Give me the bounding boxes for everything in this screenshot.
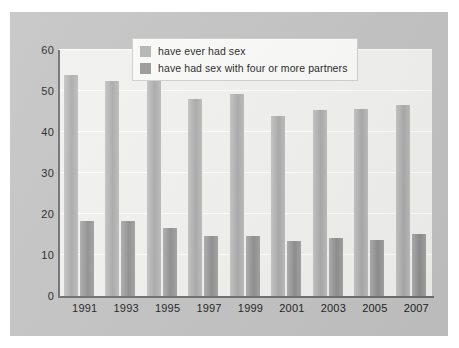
chart-legend: have ever had sex have had sex with four…: [132, 38, 358, 81]
bar: [230, 94, 244, 296]
bar: [188, 99, 202, 296]
bar: [354, 109, 368, 296]
y-axis-tick-label: 0: [14, 290, 54, 302]
bar: [246, 236, 260, 296]
bar: [105, 81, 119, 296]
bar-group: [308, 50, 349, 296]
legend-item: have ever had sex: [140, 45, 348, 57]
bar: [313, 110, 327, 296]
bar-group: [100, 50, 141, 296]
bar-group: [183, 50, 224, 296]
bar-group: [349, 50, 390, 296]
bar-group: [266, 50, 307, 296]
legend-item: have had sex with four or more partners: [140, 62, 348, 74]
bar: [271, 116, 285, 296]
x-axis-line: [59, 296, 434, 298]
y-axis-tick-label: 30: [14, 167, 54, 179]
bar: [121, 221, 135, 296]
bar-group: [391, 50, 432, 296]
bar: [412, 234, 426, 296]
bar: [64, 75, 78, 296]
bar: [147, 81, 161, 296]
y-axis-tick-label: 40: [14, 126, 54, 138]
x-axis-tick-label: 2007: [386, 302, 446, 314]
bar: [396, 105, 410, 296]
y-axis-tick-label: 20: [14, 208, 54, 220]
legend-swatch-icon: [140, 46, 151, 57]
y-axis-tick-label: 10: [14, 249, 54, 261]
legend-item-label: have had sex with four or more partners: [158, 62, 348, 74]
bar: [204, 236, 218, 296]
bar-group: [59, 50, 100, 296]
bar-group: [225, 50, 266, 296]
bar: [163, 228, 177, 296]
bar: [329, 238, 343, 296]
bars-layer: [59, 50, 432, 296]
legend-swatch-icon: [140, 63, 151, 74]
y-axis-tick-label: 60: [14, 44, 54, 56]
x-axis-tick-labels: 199119931995199719992001200320052007: [59, 302, 432, 326]
legend-item-label: have ever had sex: [158, 45, 246, 57]
y-axis-tick-label: 50: [14, 85, 54, 97]
chart-figure: 0102030405060 19911993199519971999200120…: [10, 12, 448, 336]
bar: [287, 241, 301, 296]
bar: [370, 240, 384, 296]
bar-group: [142, 50, 183, 296]
y-axis-tick-labels: 0102030405060: [10, 12, 54, 336]
bar: [80, 221, 94, 296]
